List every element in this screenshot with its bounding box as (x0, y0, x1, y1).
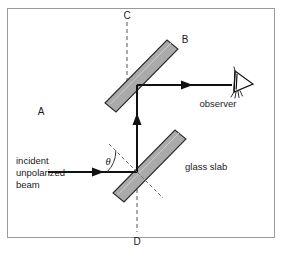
label-point-a: A (38, 106, 45, 117)
optics-diagram: A B C D θ observer glass slab incident u… (0, 0, 283, 264)
reflected-vertical-beam (133, 85, 142, 172)
label-theta: θ (105, 156, 110, 167)
arrow-right-icon (181, 81, 193, 90)
eye-icon (231, 67, 253, 98)
label-incident-line2: unpolarized (16, 167, 65, 178)
label-observer: observer (200, 98, 237, 109)
output-beam (137, 81, 232, 90)
label-incident-line1: incident (16, 155, 49, 166)
label-point-b: B (182, 34, 189, 45)
lower-slab-highlight (118, 133, 179, 195)
figure-root: A B C D θ observer glass slab incident u… (0, 0, 283, 264)
label-point-d: D (133, 236, 140, 247)
label-glass-slab: glass slab (185, 161, 227, 172)
lower-glass-slab (113, 130, 186, 202)
label-incident-line3: beam (16, 179, 40, 190)
upper-slab-highlight (110, 43, 171, 105)
arrow-up-icon (133, 113, 142, 125)
label-point-c: C (123, 10, 130, 21)
upper-glass-slab (0, 0, 178, 112)
normal-dashed-line (108, 143, 137, 172)
arrow-right-icon (92, 168, 104, 177)
